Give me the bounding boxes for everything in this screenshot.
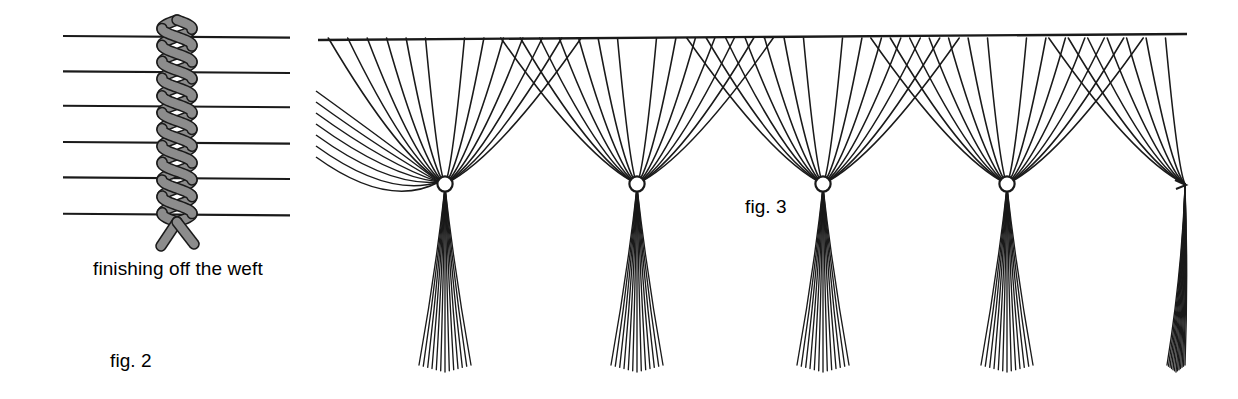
knot	[437, 176, 452, 191]
illustration-canvas: finishing off the weft fig. 2 fig. 3	[0, 0, 1238, 399]
tassel-group	[419, 187, 1187, 372]
net-thread	[949, 38, 1007, 184]
knot	[999, 176, 1014, 191]
net-thread	[387, 38, 445, 184]
tassel-thread	[990, 187, 1007, 367]
figure-label-fig-2: fig. 2	[110, 350, 152, 372]
caption-finishing-off-the-weft: finishing off the weft	[93, 258, 263, 280]
tassel-thread	[620, 187, 637, 367]
tassel-thread	[428, 187, 445, 367]
net-thread	[765, 38, 823, 184]
knot-group	[437, 176, 1186, 191]
net-thread-group	[316, 38, 1185, 191]
figure-label-fig-3: fig. 3	[745, 196, 787, 218]
net-thread	[1127, 38, 1185, 184]
tassel-thread	[806, 187, 823, 367]
net-thread	[445, 38, 503, 184]
net-thread	[1007, 38, 1065, 184]
net-thread	[823, 38, 881, 184]
knot	[629, 176, 644, 191]
net-thread	[637, 38, 695, 184]
net-thread	[579, 38, 637, 184]
figure-3-knotted-fringe	[0, 0, 1238, 399]
knot	[815, 176, 830, 191]
